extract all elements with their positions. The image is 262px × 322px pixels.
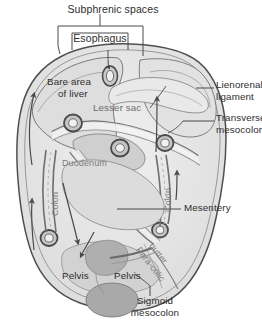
label-mesentery: Mesentery — [184, 203, 231, 214]
bowel-ring-center — [111, 140, 129, 157]
bowel-ring-upper-left — [64, 115, 82, 132]
label-lienorenal-ligament-line1: Lienorenal — [216, 80, 262, 91]
label-sigmoid-mesocolon-line2: mesocolon — [110, 308, 200, 319]
label-duodenum: Duodenum — [62, 158, 107, 168]
label-lienorenal-ligament-line2: ligament — [216, 92, 254, 103]
label-sigmoid-mesocolon-line1: Sigmoid — [110, 296, 200, 307]
label-colon-left: Colon — [50, 192, 60, 216]
label-lesser-sac: Lesser sac — [93, 103, 141, 114]
label-transverse-mesocolon-line2: mesocolon — [216, 125, 262, 136]
label-pelvis-right: Pelvis — [114, 271, 141, 282]
anatomical-figure: Subphrenic spaces Esophagus Bare area of… — [0, 0, 262, 322]
label-pelvis-left: Pelvis — [62, 271, 89, 282]
label-bare-area-of-liver-line1: Bare area — [47, 77, 91, 88]
label-esophagus: Esophagus — [72, 33, 128, 45]
label-transverse-mesocolon-line1: Transverse — [216, 113, 262, 124]
label-bare-area-of-liver-line2: of liver — [58, 89, 88, 100]
label-subphrenic-spaces: Subphrenic spaces — [54, 4, 172, 16]
label-colon-right: Colon — [163, 188, 173, 212]
bowel-ring-upper-right — [157, 135, 174, 151]
esophagus-opening — [103, 66, 118, 86]
bowel-ring-lower-left — [41, 230, 58, 246]
